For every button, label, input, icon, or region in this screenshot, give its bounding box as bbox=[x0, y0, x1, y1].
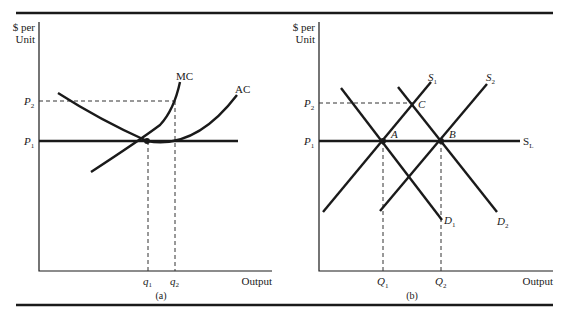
panel-a-caption: (a) bbox=[155, 290, 166, 302]
panel-b-p1-label: P1 bbox=[303, 135, 315, 150]
panel-b-q2-label: Q2 bbox=[435, 275, 447, 290]
panel-a-p2-label: P2 bbox=[23, 95, 35, 110]
s1-curve bbox=[323, 82, 431, 212]
mc-curve bbox=[91, 82, 180, 172]
panel-a-x-label: Output bbox=[241, 275, 272, 287]
figure-long-run-supply: $ per Unit Output (a) MC AC P2 P1 q1 q2 … bbox=[0, 0, 567, 320]
panel-a: $ per Unit Output (a) MC AC P2 P1 q1 q2 bbox=[13, 21, 272, 302]
panel-a-axes bbox=[39, 22, 272, 271]
panel-b-axes bbox=[319, 22, 553, 271]
point-a-dot bbox=[380, 138, 386, 144]
panel-a-q2-label: q2 bbox=[170, 275, 180, 289]
panel-b-y-label-line1: $ per bbox=[293, 21, 316, 33]
panel-b-caption: (b) bbox=[406, 290, 418, 302]
d1-label: D1 bbox=[443, 214, 456, 229]
s2-label: S2 bbox=[486, 71, 496, 86]
panel-b: $ per Unit Output (b) A B C S1 S2 SL D1 … bbox=[293, 21, 553, 302]
panel-b-y-label-line2: Unit bbox=[295, 33, 315, 45]
panel-b-q1-label: Q1 bbox=[377, 275, 389, 290]
panel-a-q1-label: q1 bbox=[143, 275, 153, 289]
sl-label: SL bbox=[523, 135, 533, 150]
point-a-label: A bbox=[390, 128, 398, 140]
d2-label: D2 bbox=[496, 215, 509, 230]
panel-b-p2-label: P2 bbox=[303, 97, 315, 112]
ac-label: AC bbox=[235, 83, 250, 95]
point-c-label: C bbox=[418, 98, 426, 110]
panel-a-p1-label: P1 bbox=[23, 135, 35, 150]
mc-label: MC bbox=[176, 70, 193, 82]
point-b-label: B bbox=[449, 128, 456, 140]
panel-b-x-label: Output bbox=[522, 275, 553, 287]
panel-a-y-label-line2: Unit bbox=[15, 33, 35, 45]
d2-curve bbox=[398, 87, 497, 212]
panel-a-equilibrium-point bbox=[144, 138, 150, 144]
panel-a-y-label-line1: $ per bbox=[13, 21, 36, 33]
point-b-dot bbox=[438, 138, 444, 144]
